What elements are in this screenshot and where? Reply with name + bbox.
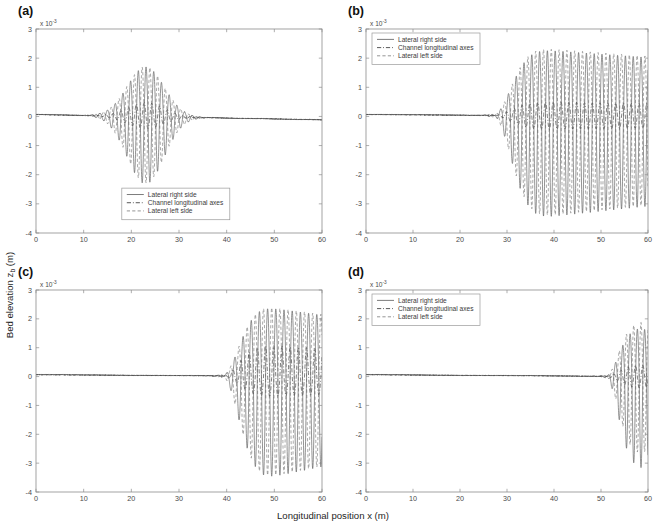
x-tick-label: 60: [318, 494, 326, 503]
legend-label: Channel longitudinal axes: [398, 305, 474, 313]
x-tick-label: 0: [34, 494, 38, 503]
y-tick-label: -4: [356, 488, 362, 497]
legend: Lateral right sideChannel longitudinal a…: [122, 188, 230, 220]
x-tick-label: 30: [503, 235, 511, 244]
x-tick-label: 30: [175, 235, 183, 244]
y-tick-label: 3: [358, 25, 362, 34]
panel-label: (c): [18, 265, 33, 279]
panel-label: (d): [348, 265, 364, 279]
x-tick-label: 20: [127, 235, 135, 244]
legend: Lateral right sideChannel longitudinal a…: [372, 294, 480, 326]
x-tick-label: 10: [80, 494, 88, 503]
x-tick-label: 20: [127, 494, 135, 503]
x-tick-label: 10: [80, 235, 88, 244]
x-tick-label: 30: [503, 494, 511, 503]
y-tick-label: 0: [358, 372, 362, 381]
y-axis-title-main: Bed elevation z: [4, 272, 15, 338]
y-tick-label: -1: [356, 401, 362, 410]
panel-label: (a): [18, 4, 33, 18]
y-tick-label: 1: [358, 83, 362, 92]
legend-label: Channel longitudinal axes: [148, 199, 224, 207]
x-axis-title: Longitudinal position x (m): [277, 510, 389, 521]
y-tick-label: 1: [358, 343, 362, 352]
x-tick-label: 0: [34, 235, 38, 244]
y-tick-label: 2: [358, 54, 362, 63]
x-tick-label: 30: [175, 494, 183, 503]
legend: Lateral right sideChannel longitudinal a…: [372, 33, 480, 65]
y-tick-label: -2: [26, 170, 32, 179]
y-axis-title: Bed elevation zb (m): [4, 252, 16, 338]
x-axis-title-text: Longitudinal position x (m): [277, 510, 389, 521]
x-tick-label: 40: [550, 494, 558, 503]
legend-label: Lateral left side: [398, 52, 443, 59]
figure-background: [0, 0, 659, 525]
y-tick-label: -3: [26, 199, 32, 208]
legend-label: Lateral left side: [398, 313, 443, 320]
x-tick-label: 60: [318, 235, 326, 244]
figure-root: Bed elevation zb (m) Longitudinal positi…: [0, 0, 659, 525]
y-tick-label: -3: [26, 459, 32, 468]
x-tick-label: 50: [270, 494, 278, 503]
panel-label: (b): [348, 4, 364, 18]
svg-text:Bed elevation zb (m): Bed elevation zb (m): [4, 252, 16, 338]
x-tick-label: 20: [456, 235, 464, 244]
legend-label: Lateral right side: [398, 36, 447, 44]
y-tick-label: -4: [26, 488, 32, 497]
y-tick-label: 0: [28, 112, 32, 121]
legend-label: Channel longitudinal axes: [398, 44, 474, 52]
x-tick-label: 0: [364, 494, 368, 503]
y-tick-label: -4: [26, 229, 32, 238]
x-tick-label: 50: [597, 494, 605, 503]
y-tick-label: -2: [26, 430, 32, 439]
legend-label: Lateral left side: [148, 207, 193, 214]
y-tick-label: -2: [356, 170, 362, 179]
y-tick-label: -2: [356, 430, 362, 439]
x-tick-label: 40: [223, 235, 231, 244]
x-tick-label: 20: [456, 494, 464, 503]
x-tick-label: 40: [223, 494, 231, 503]
x-tick-label: 50: [270, 235, 278, 244]
y-tick-label: -1: [26, 401, 32, 410]
y-tick-label: 3: [28, 25, 32, 34]
y-tick-label: 2: [28, 54, 32, 63]
y-tick-label: -1: [356, 141, 362, 150]
x-tick-label: 10: [409, 235, 417, 244]
y-tick-label: 2: [28, 314, 32, 323]
y-tick-label: -3: [356, 199, 362, 208]
y-tick-label: 0: [28, 372, 32, 381]
y-tick-label: -1: [26, 141, 32, 150]
legend-label: Lateral right side: [148, 191, 197, 199]
x-tick-label: 50: [597, 235, 605, 244]
y-tick-label: -3: [356, 459, 362, 468]
y-tick-label: -4: [356, 229, 362, 238]
x-tick-label: 60: [644, 494, 652, 503]
y-tick-label: 1: [28, 83, 32, 92]
x-tick-label: 60: [644, 235, 652, 244]
x-tick-label: 0: [364, 235, 368, 244]
y-tick-label: 3: [28, 286, 32, 295]
y-tick-label: 0: [358, 112, 362, 121]
x-tick-label: 40: [550, 235, 558, 244]
legend-label: Lateral right side: [398, 297, 447, 305]
x-tick-label: 10: [409, 494, 417, 503]
y-axis-title-tail: (m): [4, 252, 15, 269]
y-tick-label: 1: [28, 343, 32, 352]
y-tick-label: 3: [358, 286, 362, 295]
y-tick-label: 2: [358, 314, 362, 323]
